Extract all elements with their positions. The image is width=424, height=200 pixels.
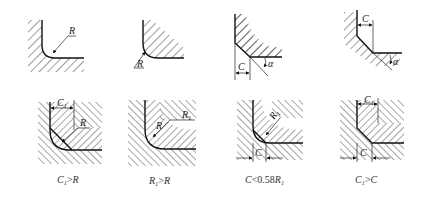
hatched-region (344, 12, 400, 66)
figure-h-c1-gt-c: C1 C (340, 94, 404, 162)
angle-label: α (268, 58, 274, 69)
c1-label: C1 (364, 94, 374, 106)
figure-a-external-fillet: R (28, 20, 84, 72)
fillet-edge (42, 20, 84, 58)
c1-label: C1 (57, 97, 67, 109)
chamfer-label: C (238, 61, 245, 72)
hatched-region (143, 20, 184, 58)
figure-f-r1-gt-r: R1 R (128, 100, 196, 166)
radius-label: R (155, 120, 162, 131)
c-label: C (360, 147, 367, 158)
figure-e-c1-gt-r: C1 R (38, 97, 102, 164)
figure-d-internal-chamfer: C α (344, 10, 402, 70)
radius-label: R (68, 25, 75, 36)
caption-f: R1>R (148, 175, 170, 187)
figure-g-c-lt-058r1: R1 C (236, 100, 303, 162)
radius-leader (53, 36, 68, 53)
angle-label: α (393, 56, 399, 67)
c-label: C (255, 147, 262, 158)
figure-b-internal-fillet: R (134, 20, 184, 69)
figure-c-external-chamfer: C α (235, 14, 282, 80)
hatched-region (28, 20, 84, 72)
angle-arc (264, 58, 266, 67)
caption-h: C1>C (355, 174, 378, 186)
caption-g: C<0.58R1 (245, 174, 284, 186)
caption-e: C1>R (57, 174, 79, 186)
chamfer-label: C (362, 13, 369, 24)
radius-label: R (79, 117, 86, 128)
diagram-canvas: R R C α C α (0, 0, 424, 200)
radius-label: R (136, 58, 143, 69)
